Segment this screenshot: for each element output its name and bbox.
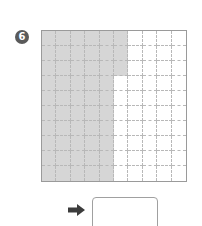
- grid-cell-shaded: [71, 121, 85, 136]
- grid-cell: [172, 166, 186, 181]
- grid-cell: [114, 76, 128, 91]
- grid-cell: [172, 76, 186, 91]
- grid-cell-shaded: [71, 46, 85, 61]
- grid-cell: [114, 91, 128, 106]
- grid-cell-shaded: [56, 136, 70, 151]
- grid-cell: [157, 31, 171, 46]
- grid-cell: [157, 166, 171, 181]
- grid-cell-shaded: [85, 31, 99, 46]
- grid-cell-shaded: [71, 136, 85, 151]
- grid-cell-shaded: [100, 31, 114, 46]
- grid-cell-shaded: [114, 31, 128, 46]
- grid-cell-shaded: [114, 61, 128, 76]
- grid-cell: [128, 91, 142, 106]
- grid-cell: [143, 136, 157, 151]
- grid-cell-shaded: [56, 121, 70, 136]
- grid-cell-shaded: [100, 76, 114, 91]
- grid-cell: [172, 136, 186, 151]
- grid-cell-shaded: [42, 46, 56, 61]
- grid-cell-shaded: [114, 46, 128, 61]
- grid-cell-shaded: [85, 166, 99, 181]
- grid-cell: [114, 151, 128, 166]
- grid-cell-shaded: [56, 76, 70, 91]
- grid-cell-shaded: [56, 31, 70, 46]
- grid-cell: [157, 91, 171, 106]
- grid-cell-shaded: [71, 151, 85, 166]
- grid-cell: [172, 61, 186, 76]
- grid-cell: [143, 106, 157, 121]
- grid-cell-shaded: [56, 46, 70, 61]
- grid-cell: [157, 46, 171, 61]
- grid-cell: [143, 121, 157, 136]
- grid-cell-shaded: [42, 121, 56, 136]
- grid-cell-shaded: [56, 166, 70, 181]
- grid-cell-shaded: [100, 106, 114, 121]
- grid-cell-shaded: [42, 136, 56, 151]
- answer-box[interactable]: [92, 197, 158, 226]
- grid-cell: [128, 61, 142, 76]
- grid-cell-shaded: [71, 91, 85, 106]
- grid-cell-shaded: [71, 61, 85, 76]
- grid-cell-shaded: [42, 76, 56, 91]
- grid-cell-shaded: [42, 151, 56, 166]
- grid-cell-shaded: [100, 136, 114, 151]
- grid-cell-shaded: [56, 91, 70, 106]
- hundred-grid: [41, 30, 187, 182]
- grid-cell-shaded: [42, 106, 56, 121]
- grid-cell-shaded: [71, 166, 85, 181]
- grid-cell-shaded: [100, 91, 114, 106]
- problem-number-badge: 6: [15, 30, 29, 44]
- grid-cell: [157, 61, 171, 76]
- grid-cell: [128, 106, 142, 121]
- grid-cell-shaded: [56, 151, 70, 166]
- grid-cell: [143, 61, 157, 76]
- grid-cell-shaded: [42, 166, 56, 181]
- grid-cell: [157, 76, 171, 91]
- grid-cell-shaded: [100, 151, 114, 166]
- grid-cell: [172, 31, 186, 46]
- grid-cell: [157, 106, 171, 121]
- grid-cell-shaded: [100, 166, 114, 181]
- grid-cell: [114, 166, 128, 181]
- grid-cell: [128, 46, 142, 61]
- grid-cell: [128, 136, 142, 151]
- grid-cell: [172, 121, 186, 136]
- grid-cell-shaded: [42, 91, 56, 106]
- grid-cell-shaded: [42, 31, 56, 46]
- grid-cell-shaded: [85, 46, 99, 61]
- grid-cell: [128, 31, 142, 46]
- grid-cell: [114, 106, 128, 121]
- grid-cell-shaded: [42, 61, 56, 76]
- grid-cell: [157, 136, 171, 151]
- grid-cell-shaded: [100, 46, 114, 61]
- grid-cell: [143, 91, 157, 106]
- grid-cell-shaded: [85, 151, 99, 166]
- grid-cell-shaded: [71, 31, 85, 46]
- grid-cell: [172, 46, 186, 61]
- grid-cell-shaded: [71, 76, 85, 91]
- grid-cell-shaded: [85, 106, 99, 121]
- grid-cell: [128, 121, 142, 136]
- grid-cell: [143, 76, 157, 91]
- grid-cell: [172, 151, 186, 166]
- grid-cell: [157, 151, 171, 166]
- grid-cell-shaded: [100, 61, 114, 76]
- grid-cell: [172, 106, 186, 121]
- grid-cell: [114, 121, 128, 136]
- grid-cell-shaded: [85, 91, 99, 106]
- right-arrow-icon: [68, 204, 85, 216]
- grid-cell-shaded: [85, 61, 99, 76]
- grid-cell: [157, 121, 171, 136]
- grid-cell: [143, 46, 157, 61]
- grid-cell: [114, 136, 128, 151]
- grid-cell: [128, 166, 142, 181]
- grid-cell: [143, 31, 157, 46]
- grid-cell: [143, 151, 157, 166]
- grid-cell: [128, 151, 142, 166]
- grid-cell-shaded: [56, 61, 70, 76]
- grid-cell-shaded: [85, 136, 99, 151]
- grid-cell-shaded: [85, 121, 99, 136]
- grid-cell-shaded: [85, 76, 99, 91]
- grid-cell-shaded: [71, 106, 85, 121]
- grid-cell: [172, 91, 186, 106]
